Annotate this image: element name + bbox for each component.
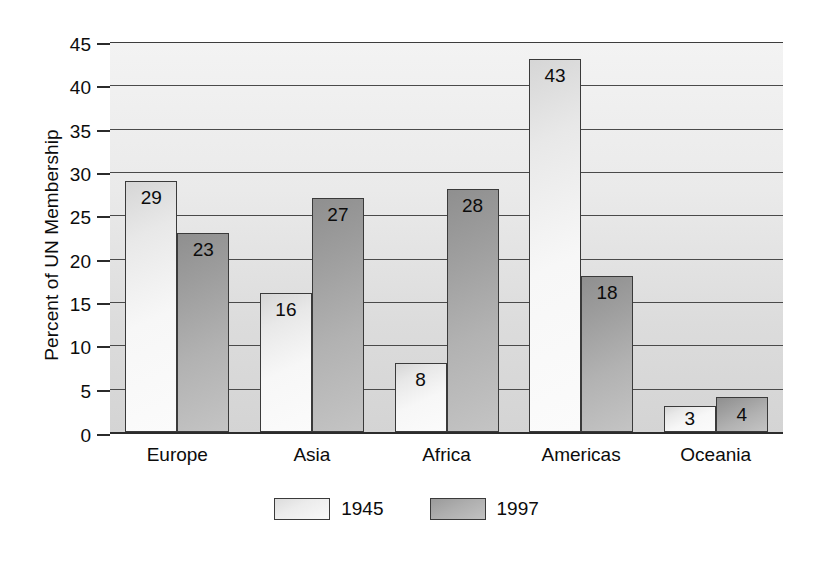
y-tick-0: 0 [97, 434, 110, 436]
gridline-35: 35 [110, 129, 783, 130]
bar-chart-figure: Percent of UN Membership 051015202530354… [0, 0, 813, 573]
gridline-40: 40 [110, 85, 783, 86]
y-axis-title: Percent of UN Membership [41, 45, 63, 445]
gridline-30: 30 [110, 172, 783, 173]
bar-europe-1997: 23 [177, 233, 229, 432]
bar-value-label: 3 [665, 409, 715, 428]
y-tick-label-5: 5 [80, 381, 91, 403]
y-tick-label-30: 30 [70, 164, 91, 186]
legend-item-1945: 1945 [274, 498, 383, 520]
gridline-0: 0 [110, 432, 783, 434]
y-tick-label-15: 15 [70, 294, 91, 316]
y-tick-25: 25 [97, 216, 110, 218]
bar-value-label: 28 [448, 196, 498, 215]
y-tick-5: 5 [97, 390, 110, 392]
y-tick-35: 35 [97, 130, 110, 132]
bar-value-label: 4 [717, 404, 767, 423]
bar-value-label: 23 [178, 240, 228, 259]
bar-oceania-1997: 4 [716, 397, 768, 432]
gridline-45: 45 [110, 42, 783, 43]
bar-value-label: 27 [313, 205, 363, 224]
legend-swatch-1945 [274, 498, 330, 520]
bar-europe-1945: 29 [125, 181, 177, 432]
y-tick-label-35: 35 [70, 121, 91, 143]
bar-americas-1997: 18 [581, 276, 633, 432]
y-tick-label-45: 45 [70, 34, 91, 56]
y-tick-label-25: 25 [70, 207, 91, 229]
bar-value-label: 29 [126, 188, 176, 207]
y-tick-40: 40 [97, 86, 110, 88]
bar-value-label: 8 [396, 370, 446, 389]
plot-area: 051015202530354045 29231627828431834 [110, 42, 783, 432]
y-tick-label-40: 40 [70, 77, 91, 99]
y-tick-label-10: 10 [70, 337, 91, 359]
bar-value-label: 16 [261, 300, 311, 319]
legend-swatch-1997 [430, 498, 486, 520]
bar-africa-1945: 8 [395, 363, 447, 432]
bar-africa-1997: 28 [447, 189, 499, 432]
bar-asia-1997: 27 [312, 198, 364, 432]
bar-value-label: 43 [530, 66, 580, 85]
bar-oceania-1945: 3 [664, 406, 716, 432]
bar-asia-1945: 16 [260, 293, 312, 432]
y-tick-15: 15 [97, 303, 110, 305]
category-label-americas: Americas [514, 444, 649, 466]
bar-americas-1945: 43 [529, 59, 581, 432]
category-label-europe: Europe [110, 444, 245, 466]
legend-label-1945: 1945 [341, 498, 383, 520]
chart-legend: 1945 1997 [0, 498, 813, 520]
y-tick-45: 45 [97, 43, 110, 45]
category-label-africa: Africa [379, 444, 514, 466]
legend-label-1997: 1997 [497, 498, 539, 520]
y-tick-10: 10 [97, 346, 110, 348]
category-label-asia: Asia [245, 444, 380, 466]
category-label-oceania: Oceania [648, 444, 783, 466]
bar-value-label: 18 [582, 283, 632, 302]
y-tick-label-20: 20 [70, 251, 91, 273]
y-tick-20: 20 [97, 260, 110, 262]
y-tick-label-0: 0 [80, 425, 91, 447]
y-tick-30: 30 [97, 173, 110, 175]
legend-item-1997: 1997 [430, 498, 539, 520]
